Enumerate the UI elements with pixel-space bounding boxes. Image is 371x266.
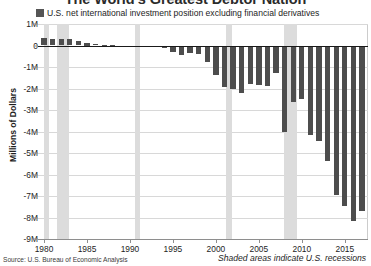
legend-swatch-icon (36, 9, 44, 17)
y-tick-label: -7M (4, 191, 38, 201)
chart-container: The World's Greatest Debtor Nation U.S. … (0, 0, 371, 266)
bar (222, 46, 227, 87)
x-tick-mark (87, 239, 88, 243)
y-tick-label: 0 (4, 41, 38, 51)
bar (282, 46, 287, 132)
bar (239, 46, 244, 93)
x-tick-mark (173, 239, 174, 243)
source-note: Source: U.S. Bureau of Economic Analysis (3, 256, 128, 263)
x-tick-label: 1985 (78, 244, 97, 254)
bar (213, 46, 218, 76)
x-tick-label: 1995 (164, 244, 183, 254)
bar (256, 46, 261, 86)
bar-series (38, 24, 368, 239)
bar (316, 46, 321, 142)
bar (205, 46, 210, 63)
bar (351, 46, 356, 222)
bar (291, 46, 296, 103)
x-tick-mark (345, 239, 346, 243)
legend-label: U.S. net international investment positi… (47, 8, 319, 18)
recession-note: Shaded areas indicate U.S. recessions (218, 253, 366, 263)
y-tick-label: -1M (4, 62, 38, 72)
bar (50, 39, 55, 46)
y-tick-label: -3M (4, 105, 38, 115)
bar (248, 46, 253, 84)
bar (334, 46, 339, 195)
bar (308, 46, 313, 135)
x-tick-mark (216, 239, 217, 243)
bar (265, 46, 270, 86)
x-tick-mark (44, 239, 45, 243)
y-tick-label: -8M (4, 213, 38, 223)
plot-area (38, 24, 368, 239)
bar (359, 46, 364, 212)
bar (230, 46, 235, 90)
x-tick-mark (259, 239, 260, 243)
y-tick-label: -5M (4, 148, 38, 158)
y-tick-label: -6M (4, 170, 38, 180)
y-tick-label: -9M (4, 234, 38, 244)
bar (41, 38, 46, 46)
x-tick-mark (302, 239, 303, 243)
bar (273, 46, 278, 74)
bar (179, 46, 184, 55)
bar (299, 46, 304, 100)
zero-line (38, 46, 368, 47)
chart-legend: U.S. net international investment positi… (36, 8, 319, 18)
bar (342, 46, 347, 206)
x-tick-label: 1980 (35, 244, 54, 254)
y-tick-label: -4M (4, 127, 38, 137)
x-tick-label: 1990 (121, 244, 140, 254)
bar (325, 46, 330, 161)
y-tick-label: 1M (4, 19, 38, 29)
x-tick-mark (130, 239, 131, 243)
chart-title: The World's Greatest Debtor Nation (0, 0, 371, 7)
y-tick-label: -2M (4, 84, 38, 94)
